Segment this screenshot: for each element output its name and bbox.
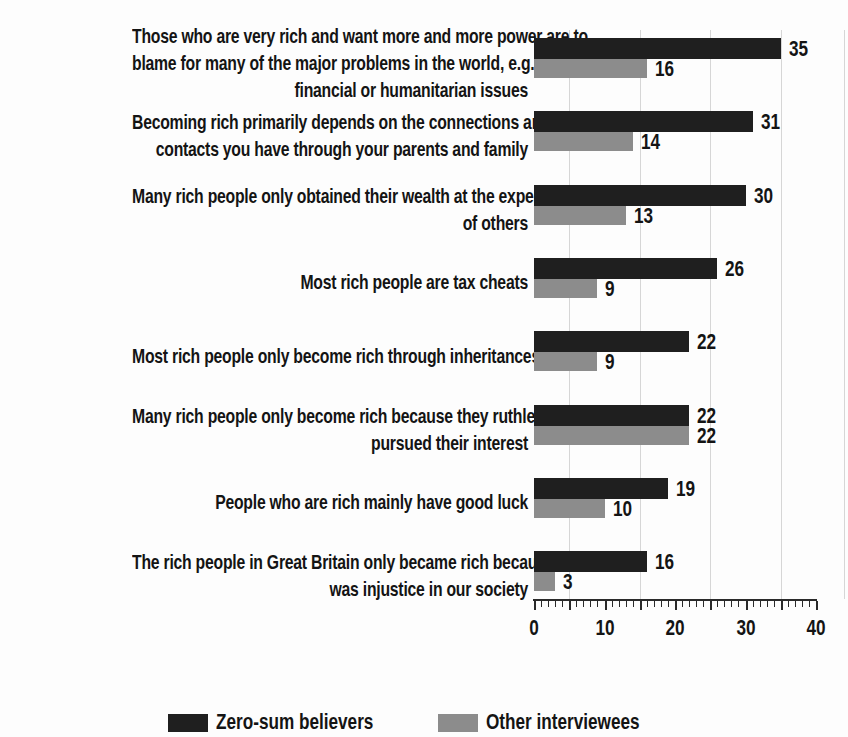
value-label-other-interviewees: 14 — [641, 132, 660, 151]
value-label-zero-sum-believers: 16 — [655, 551, 674, 572]
value-label-other-interviewees: 13 — [634, 206, 653, 225]
x-axis-major-tick — [781, 601, 783, 610]
x-axis-minor-tick — [696, 601, 697, 607]
bar-zero-sum-believers — [534, 258, 717, 279]
legend-swatch-zero-sum-believers — [168, 714, 208, 732]
category-label: The rich people in Great Britain only be… — [132, 548, 528, 602]
x-axis-minor-tick — [654, 601, 655, 607]
x-axis-minor-tick — [738, 601, 739, 607]
x-axis-major-tick — [710, 601, 712, 610]
bar-other-interviewees — [534, 206, 626, 225]
x-axis-tick-label: 30 — [736, 615, 755, 641]
value-label-zero-sum-believers: 31 — [761, 111, 780, 132]
x-axis-minor-tick — [541, 601, 542, 607]
x-axis-minor-tick — [774, 601, 775, 607]
category-label: Many rich people only become rich becaus… — [132, 402, 528, 456]
bar-other-interviewees — [534, 352, 597, 371]
value-label-zero-sum-believers: 30 — [754, 185, 773, 206]
x-axis-major-tick — [605, 601, 607, 610]
x-axis-minor-tick — [703, 601, 704, 607]
value-label-other-interviewees: 10 — [613, 499, 632, 518]
x-axis-minor-tick — [668, 601, 669, 607]
value-label-other-interviewees: 22 — [697, 426, 716, 445]
x-axis-minor-tick — [809, 601, 810, 607]
bar-other-interviewees — [534, 426, 689, 445]
category-label: Most rich people only become rich throug… — [132, 342, 528, 369]
value-label-zero-sum-believers: 19 — [676, 478, 695, 499]
value-label-zero-sum-believers: 22 — [697, 331, 716, 352]
x-axis-minor-tick — [717, 601, 718, 607]
x-axis-minor-tick — [647, 601, 648, 607]
x-axis-minor-tick — [576, 601, 577, 607]
bar-chart-figure: Those who are very rich and want more an… — [0, 0, 848, 737]
value-label-other-interviewees: 3 — [563, 572, 573, 591]
x-axis-minor-tick — [788, 601, 789, 607]
category-label: Becoming rich primarily depends on the c… — [132, 108, 528, 162]
x-axis-minor-tick — [661, 601, 662, 607]
x-axis-minor-tick — [633, 601, 634, 607]
x-axis-minor-tick — [555, 601, 556, 607]
x-axis-tick-label: 20 — [665, 615, 684, 641]
bar-zero-sum-believers — [534, 551, 647, 572]
x-axis-major-tick — [816, 601, 818, 610]
legend-swatch-other-interviewees — [438, 714, 478, 732]
x-axis-minor-tick — [612, 601, 613, 607]
x-axis-tick-label: 40 — [806, 615, 825, 641]
x-axis-major-tick — [675, 601, 677, 610]
x-axis-minor-tick — [802, 601, 803, 607]
bar-other-interviewees — [534, 572, 555, 591]
x-axis-minor-tick — [597, 601, 598, 607]
legend-label-zero-sum-believers: Zero-sum believers — [216, 711, 373, 733]
x-axis-minor-tick — [583, 601, 584, 607]
x-axis-tick-label: 0 — [529, 615, 539, 641]
x-axis-minor-tick — [562, 601, 563, 607]
category-label: Those who are very rich and want more an… — [132, 22, 528, 103]
bar-other-interviewees — [534, 499, 605, 518]
category-label: People who are rich mainly have good luc… — [132, 488, 528, 515]
x-axis-minor-tick — [753, 601, 754, 607]
bar-zero-sum-believers — [534, 478, 668, 499]
x-axis-major-tick — [569, 601, 571, 610]
x-axis-minor-tick — [795, 601, 796, 607]
x-axis-minor-tick — [619, 601, 620, 607]
gridline — [781, 30, 782, 599]
bar-zero-sum-believers — [534, 405, 689, 426]
x-axis-minor-tick — [731, 601, 732, 607]
category-label: Many rich people only obtained their wea… — [132, 182, 528, 236]
bar-other-interviewees — [534, 279, 597, 298]
x-axis-minor-tick — [767, 601, 768, 607]
bar-other-interviewees — [534, 132, 633, 151]
category-label: Most rich people are tax cheats — [132, 268, 528, 295]
value-label-zero-sum-believers: 35 — [789, 38, 808, 59]
x-axis-minor-tick — [724, 601, 725, 607]
value-label-other-interviewees: 9 — [605, 279, 615, 298]
x-axis-major-tick — [746, 601, 748, 610]
value-label-other-interviewees: 16 — [655, 59, 674, 78]
gridline — [844, 30, 845, 599]
legend-label-other-interviewees: Other interviewees — [486, 711, 640, 733]
bar-other-interviewees — [534, 59, 647, 78]
x-axis-major-tick — [534, 601, 536, 610]
x-axis-major-tick — [640, 601, 642, 610]
x-axis-minor-tick — [760, 601, 761, 607]
x-axis-minor-tick — [548, 601, 549, 607]
x-axis-minor-tick — [689, 601, 690, 607]
x-axis-minor-tick — [590, 601, 591, 607]
value-label-zero-sum-believers: 26 — [725, 258, 744, 279]
x-axis-minor-tick — [682, 601, 683, 607]
value-label-other-interviewees: 9 — [605, 352, 615, 371]
x-axis-tick-label: 10 — [595, 615, 614, 641]
x-axis-minor-tick — [626, 601, 627, 607]
